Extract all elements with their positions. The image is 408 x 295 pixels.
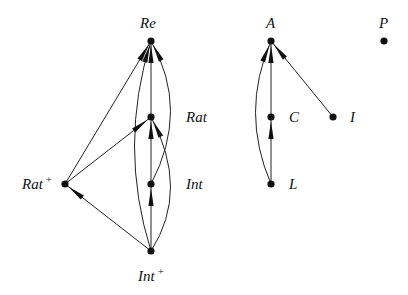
arrowhead-icon <box>153 121 163 138</box>
arrowhead-icon <box>132 119 148 132</box>
node-P <box>380 37 387 44</box>
node-C <box>267 113 274 120</box>
diagram-canvas: ReRatIntInt+Rat+ACILP <box>0 0 408 295</box>
label-L: L <box>288 176 297 192</box>
node-A <box>267 37 274 44</box>
node-Rat <box>147 113 154 120</box>
node-layer <box>61 37 387 254</box>
label-layer: ReRatIntInt+Rat+ACILP <box>21 15 388 284</box>
arrowhead-icon <box>260 45 269 63</box>
label-P: P <box>378 15 388 31</box>
label-C: C <box>289 109 300 125</box>
arrowhead-icon <box>68 186 84 199</box>
arrowhead-icon <box>268 121 273 139</box>
label-I: I <box>349 109 356 125</box>
hasse-diagram: ReRatIntInt+Rat+ACILP <box>0 0 408 295</box>
label-RatPlus: Rat+ <box>21 173 52 192</box>
node-RatPlus <box>61 180 68 187</box>
label-Re: Re <box>139 15 156 31</box>
label-A: A <box>265 15 276 31</box>
arrowhead-icon <box>148 188 153 206</box>
edge-layer <box>65 41 333 251</box>
edge-IntPlus-Re <box>135 41 152 251</box>
edge-RatPlus-Re <box>65 41 151 184</box>
label-IntPlus: Int+ <box>137 265 164 284</box>
node-Re <box>147 37 154 44</box>
arrowhead-icon <box>148 121 153 139</box>
label-Rat: Rat <box>185 109 208 125</box>
arrowhead-icon <box>274 44 287 60</box>
node-L <box>267 180 274 187</box>
node-IntPlus <box>147 247 154 254</box>
label-Int: Int <box>185 176 203 192</box>
arrowhead-icon <box>268 45 273 63</box>
node-I <box>329 113 336 120</box>
arrowhead-icon <box>153 45 164 62</box>
node-Int <box>147 180 154 187</box>
